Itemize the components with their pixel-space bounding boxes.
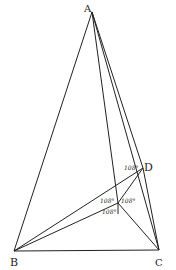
label-C: C bbox=[155, 257, 163, 268]
segment-AB bbox=[14, 12, 92, 251]
angle-label-Y-below: 108° bbox=[102, 208, 116, 215]
angle-label-D: 108° bbox=[124, 164, 138, 171]
segment-AY bbox=[92, 12, 118, 203]
geometry-diagram: A B C D 108° 108° 108° 108° bbox=[0, 0, 176, 270]
angle-label-Y-right: 108° bbox=[121, 197, 135, 204]
label-D: D bbox=[144, 161, 153, 174]
segment-AD bbox=[92, 12, 143, 168]
label-B: B bbox=[10, 256, 18, 269]
segment-BC bbox=[14, 250, 159, 251]
segments bbox=[14, 12, 159, 251]
label-A: A bbox=[83, 3, 92, 14]
segment-DC bbox=[143, 168, 159, 250]
angle-label-Y-left: 108° bbox=[100, 197, 114, 204]
